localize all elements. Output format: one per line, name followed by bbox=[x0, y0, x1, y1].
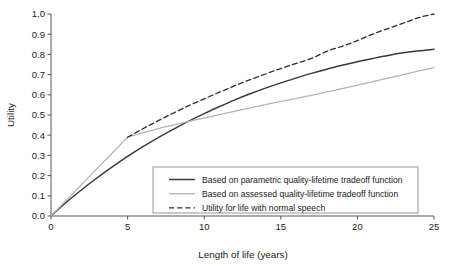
x-axis-tick-marks bbox=[51, 216, 434, 220]
x-tick-label: 10 bbox=[199, 221, 210, 232]
legend-label: Utility for life with normal speech bbox=[202, 203, 325, 213]
legend-label: Based on parametric quality-lifetime tra… bbox=[202, 175, 403, 185]
x-tick-label: 0 bbox=[48, 221, 53, 232]
chart-canvas: 0.00.10.20.30.40.50.60.70.80.91.0 051015… bbox=[0, 0, 451, 265]
y-tick-label: 0.6 bbox=[32, 89, 45, 100]
chart-legend: Based on parametric quality-lifetime tra… bbox=[153, 167, 418, 213]
series-line-2 bbox=[128, 14, 434, 137]
x-axis-tick-labels: 0510152025 bbox=[48, 221, 439, 232]
x-tick-label: 25 bbox=[429, 221, 440, 232]
x-axis-title: Length of life (years) bbox=[198, 249, 287, 260]
series-line-1 bbox=[128, 68, 434, 138]
y-tick-label: 0.1 bbox=[32, 190, 45, 201]
x-tick-label: 20 bbox=[352, 221, 363, 232]
y-tick-label: 0.4 bbox=[32, 130, 45, 141]
series-line-1 bbox=[51, 137, 128, 216]
x-tick-label: 15 bbox=[276, 221, 287, 232]
y-tick-label: 0.0 bbox=[32, 210, 45, 221]
y-tick-label: 0.7 bbox=[32, 69, 45, 80]
y-axis-tick-labels: 0.00.10.20.30.40.50.60.70.80.91.0 bbox=[32, 8, 45, 221]
y-tick-label: 0.3 bbox=[32, 150, 45, 161]
y-tick-label: 0.2 bbox=[32, 170, 45, 181]
y-tick-label: 1.0 bbox=[32, 8, 45, 19]
x-tick-label: 5 bbox=[125, 221, 130, 232]
y-tick-label: 0.5 bbox=[32, 109, 45, 120]
y-tick-label: 0.8 bbox=[32, 49, 45, 60]
utility-vs-length-of-life-chart: 0.00.10.20.30.40.50.60.70.80.91.0 051015… bbox=[0, 0, 451, 265]
y-axis-title: Utility bbox=[5, 103, 16, 127]
legend-label: Based on assessed quality-lifetime trade… bbox=[202, 189, 398, 199]
y-axis-tick-marks bbox=[48, 14, 52, 216]
y-tick-label: 0.9 bbox=[32, 29, 45, 40]
